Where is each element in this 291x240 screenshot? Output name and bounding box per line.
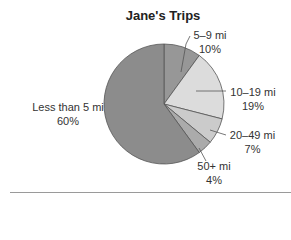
slice-label-pct: 4% bbox=[193, 173, 235, 187]
slice-label-5-9: 5–9 mi 10% bbox=[189, 28, 231, 56]
slice-label-name: 50+ mi bbox=[193, 159, 235, 173]
slice-label-name: 5–9 mi bbox=[189, 28, 231, 42]
slice-label-less-than-5: Less than 5 mi 60% bbox=[28, 100, 108, 128]
slice-label-pct: 60% bbox=[28, 114, 108, 128]
slice-label-pct: 19% bbox=[226, 99, 280, 113]
slice-label-name: 20–49 mi bbox=[225, 128, 280, 142]
slice-label-name: 10–19 mi bbox=[226, 85, 280, 99]
slice-label-name: Less than 5 mi bbox=[28, 100, 108, 114]
slice-label-pct: 7% bbox=[225, 142, 280, 156]
slice-label-20-49: 20–49 mi 7% bbox=[225, 128, 280, 156]
slice-label-50plus: 50+ mi 4% bbox=[193, 159, 235, 187]
slice-label-10-19: 10–19 mi 19% bbox=[226, 85, 280, 113]
bottom-divider bbox=[10, 192, 291, 193]
slice-label-pct: 10% bbox=[189, 42, 231, 56]
